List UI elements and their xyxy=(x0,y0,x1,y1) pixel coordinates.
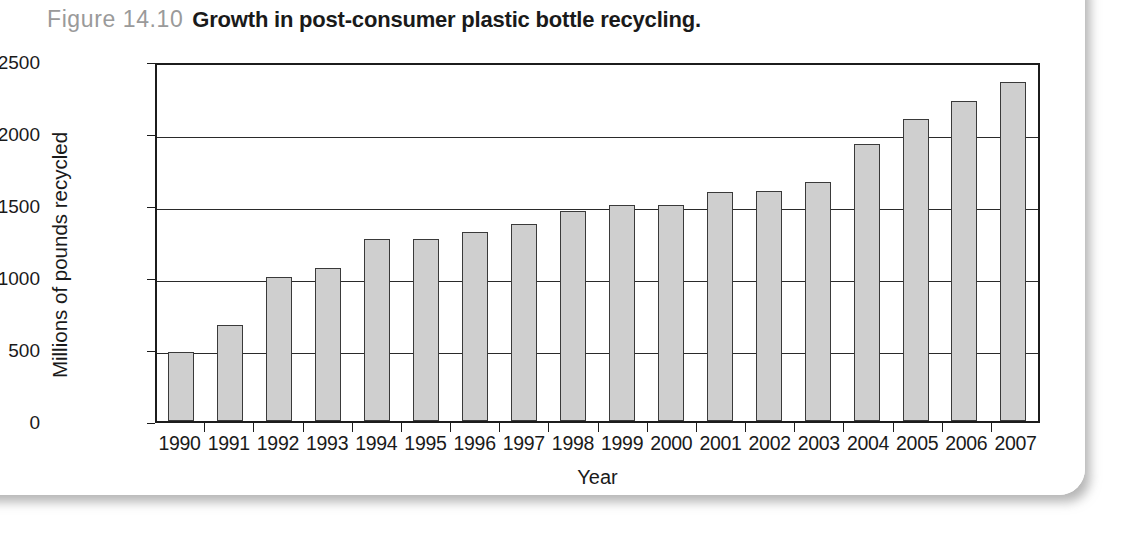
bar-2003[interactable] xyxy=(805,182,831,421)
bar-cell-1996 xyxy=(451,65,500,421)
x-tick-mark-17 xyxy=(991,423,992,432)
bar-cell-2000 xyxy=(646,65,695,421)
bar-1990[interactable] xyxy=(168,352,194,421)
bar-chart: Millions of pounds recycled 050010001500… xyxy=(0,0,1123,554)
x-tick-label-2000: 2000 xyxy=(647,432,696,460)
bar-cell-1997 xyxy=(500,65,549,421)
y-tick-label-0: 0 xyxy=(29,412,40,434)
bar-1993[interactable] xyxy=(315,268,341,421)
x-tick-mark-9 xyxy=(598,423,599,432)
bar-cell-2007 xyxy=(989,65,1038,421)
x-tick-mark-2 xyxy=(253,423,254,432)
x-tick-mark-1 xyxy=(204,423,205,432)
x-tick-label-1996: 1996 xyxy=(450,432,499,460)
x-axis-title: Year xyxy=(155,466,1040,489)
bar-cell-1991 xyxy=(206,65,255,421)
y-tick-label-2000: 2000 xyxy=(0,124,40,146)
x-tick-mark-8 xyxy=(548,423,549,432)
x-tick-label-2006: 2006 xyxy=(942,432,991,460)
bar-1992[interactable] xyxy=(266,277,292,421)
y-tick-mark-left-2000 xyxy=(147,135,155,136)
x-tick-label-1995: 1995 xyxy=(401,432,450,460)
y-tick-label-1500: 1500 xyxy=(0,196,40,218)
bar-series xyxy=(157,65,1038,421)
bar-2001[interactable] xyxy=(707,192,733,421)
bar-cell-2006 xyxy=(940,65,989,421)
x-axis-tick-labels: 1990199119921993199419951996199719981999… xyxy=(155,432,1040,460)
x-tick-label-1992: 1992 xyxy=(253,432,302,460)
y-tick-label-1000: 1000 xyxy=(0,268,40,290)
x-tick-mark-4 xyxy=(352,423,353,432)
bar-cell-1998 xyxy=(549,65,598,421)
bar-2005[interactable] xyxy=(903,119,929,421)
x-tick-label-1997: 1997 xyxy=(499,432,548,460)
bar-cell-1994 xyxy=(353,65,402,421)
bar-2006[interactable] xyxy=(951,101,977,421)
x-tick-label-1993: 1993 xyxy=(303,432,352,460)
x-tick-label-2007: 2007 xyxy=(991,432,1040,460)
x-tick-mark-15 xyxy=(893,423,894,432)
x-tick-label-2004: 2004 xyxy=(843,432,892,460)
bar-cell-2005 xyxy=(891,65,940,421)
y-tick-label-2500: 2500 xyxy=(0,52,40,74)
bar-cell-1995 xyxy=(402,65,451,421)
x-tick-label-2001: 2001 xyxy=(696,432,745,460)
y-tick-mark-left-0 xyxy=(147,423,155,424)
x-axis-tick-marks xyxy=(155,423,1040,432)
bar-2002[interactable] xyxy=(756,191,782,421)
x-tick-label-1994: 1994 xyxy=(352,432,401,460)
x-tick-label-1999: 1999 xyxy=(598,432,647,460)
x-tick-mark-13 xyxy=(794,423,795,432)
bar-cell-2001 xyxy=(695,65,744,421)
x-tick-mark-3 xyxy=(303,423,304,432)
bar-cell-2004 xyxy=(842,65,891,421)
y-tick-label-500: 500 xyxy=(8,340,40,362)
x-tick-label-2002: 2002 xyxy=(745,432,794,460)
x-tick-label-2005: 2005 xyxy=(893,432,942,460)
bar-1996[interactable] xyxy=(462,232,488,421)
x-tick-label-1991: 1991 xyxy=(204,432,253,460)
x-tick-mark-7 xyxy=(499,423,500,432)
x-tick-mark-11 xyxy=(696,423,697,432)
bar-cell-1999 xyxy=(597,65,646,421)
bar-1997[interactable] xyxy=(511,224,537,421)
bar-2000[interactable] xyxy=(658,205,684,421)
bar-2007[interactable] xyxy=(1000,82,1026,421)
bar-cell-1993 xyxy=(304,65,353,421)
bar-2004[interactable] xyxy=(854,144,880,421)
x-tick-mark-16 xyxy=(942,423,943,432)
bar-cell-1990 xyxy=(157,65,206,421)
bar-cell-2002 xyxy=(744,65,793,421)
bar-cell-1992 xyxy=(255,65,304,421)
bar-1995[interactable] xyxy=(413,239,439,421)
x-tick-mark-12 xyxy=(745,423,746,432)
x-tick-label-2003: 2003 xyxy=(794,432,843,460)
y-tick-mark-left-500 xyxy=(147,351,155,352)
y-tick-mark-left-1500 xyxy=(147,207,155,208)
bar-1994[interactable] xyxy=(364,239,390,421)
y-tick-mark-left-1000 xyxy=(147,279,155,280)
bar-1998[interactable] xyxy=(560,211,586,421)
bar-cell-2003 xyxy=(793,65,842,421)
figure-page: Figure 14.10Growth in post-consumer plas… xyxy=(0,0,1123,554)
x-tick-mark-10 xyxy=(647,423,648,432)
bar-1999[interactable] xyxy=(609,205,635,421)
x-tick-mark-5 xyxy=(401,423,402,432)
x-tick-label-1998: 1998 xyxy=(548,432,597,460)
x-tick-mark-14 xyxy=(843,423,844,432)
plot-area xyxy=(155,63,1040,423)
y-axis-title: Millions of pounds recycled xyxy=(48,90,72,420)
y-tick-mark-left-2500 xyxy=(147,63,155,64)
x-tick-label-1990: 1990 xyxy=(155,432,204,460)
x-tick-mark-6 xyxy=(450,423,451,432)
bar-1991[interactable] xyxy=(217,325,243,421)
